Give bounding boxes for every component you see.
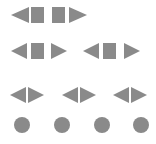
circle-icon [133, 117, 149, 133]
arrow-left-icon [83, 43, 99, 59]
arrow-left-icon [10, 87, 26, 103]
circle-icon [14, 117, 30, 133]
arrow-left-icon [11, 7, 29, 23]
square-icon [31, 43, 44, 59]
square-icon [103, 43, 116, 59]
arrow-left-icon [11, 43, 27, 59]
arrow-right-icon [80, 87, 96, 103]
arrow-left-icon [62, 87, 78, 103]
arrow-right-icon [124, 43, 140, 59]
arrow-left-icon [113, 87, 129, 103]
arrow-right-icon [131, 87, 147, 103]
arrow-right-icon [28, 87, 44, 103]
circle-icon [94, 117, 110, 133]
circle-icon [54, 117, 70, 133]
square-icon [52, 7, 65, 23]
arrow-right-icon [69, 7, 87, 23]
square-icon [31, 7, 44, 23]
arrow-right-icon [51, 43, 67, 59]
